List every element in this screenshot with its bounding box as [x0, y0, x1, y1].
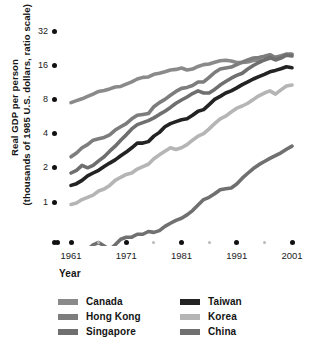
y-tick-label: 32 — [28, 27, 48, 36]
y-tick-dot — [52, 200, 57, 205]
legend-item-hong-kong[interactable]: Hong Kong — [58, 309, 178, 324]
legend-swatch — [180, 299, 200, 305]
line-series-korea — [71, 85, 292, 204]
legend-swatch — [58, 329, 78, 335]
legend-swatch — [58, 314, 78, 320]
x-tick-label: 1991 — [217, 250, 257, 261]
x-tick-dot — [124, 240, 129, 245]
x-axis-title: Year — [59, 268, 81, 279]
legend-label: Taiwan — [208, 296, 242, 307]
legend-item-canada[interactable]: Canada — [58, 294, 178, 309]
y-axis-tick-marks — [52, 0, 60, 258]
y-tick-dot — [52, 97, 57, 102]
y-tick-dot — [52, 29, 57, 34]
y-tick-label: 16 — [28, 61, 48, 70]
x-tick-dot — [69, 240, 74, 245]
legend-swatch — [180, 314, 200, 320]
x-tick-dot-minor — [263, 241, 266, 244]
series-lines — [60, 18, 310, 246]
y-axis-title-line1: Real GDP per person — [9, 59, 20, 156]
legend-column: TaiwanKoreaChina — [180, 294, 300, 339]
x-tick-dot — [234, 240, 239, 245]
y-tick-label: 8 — [28, 95, 48, 104]
y-tick-label: 4 — [28, 129, 48, 138]
x-tick-label: 2001 — [272, 250, 312, 261]
legend-swatch — [180, 329, 200, 335]
legend-label: Korea — [208, 311, 237, 322]
x-tick-label: 1981 — [162, 250, 202, 261]
x-axis: 19611971198119912001 — [0, 240, 320, 280]
x-tick-label: 1961 — [51, 250, 91, 261]
x-tick-label: 1971 — [106, 250, 146, 261]
line-series-singapore — [71, 55, 292, 173]
legend-label: China — [208, 326, 236, 337]
legend-item-china[interactable]: China — [180, 324, 300, 339]
x-tick-dot-minor — [152, 241, 155, 244]
y-axis-tick-labels: 32168421 — [26, 0, 48, 258]
y-tick-dot — [52, 165, 57, 170]
legend-label: Canada — [86, 296, 123, 307]
legend-label: Singapore — [86, 326, 136, 337]
chart-figure: Real GDP per person (thousands of 1985 U… — [0, 0, 320, 344]
legend-item-singapore[interactable]: Singapore — [58, 324, 178, 339]
chart-legend: CanadaHong KongSingaporeTaiwanKoreaChina — [58, 294, 308, 340]
y-tick-dot — [52, 63, 57, 68]
x-tick-dot — [290, 240, 295, 245]
y-tick-label: 1 — [28, 198, 48, 207]
x-axis-origin-dot — [55, 240, 60, 245]
y-tick-label: 2 — [28, 163, 48, 172]
legend-column: CanadaHong KongSingapore — [58, 294, 178, 339]
legend-item-taiwan[interactable]: Taiwan — [180, 294, 300, 309]
legend-swatch — [58, 299, 78, 305]
line-series-taiwan — [71, 67, 292, 186]
legend-label: Hong Kong — [86, 311, 141, 322]
x-tick-dot-minor — [208, 241, 211, 244]
x-tick-dot — [179, 240, 184, 245]
line-series-china — [71, 146, 292, 246]
y-tick-dot — [52, 131, 57, 136]
x-tick-dot-minor — [97, 241, 100, 244]
plot-area — [60, 18, 310, 246]
legend-item-korea[interactable]: Korea — [180, 309, 300, 324]
